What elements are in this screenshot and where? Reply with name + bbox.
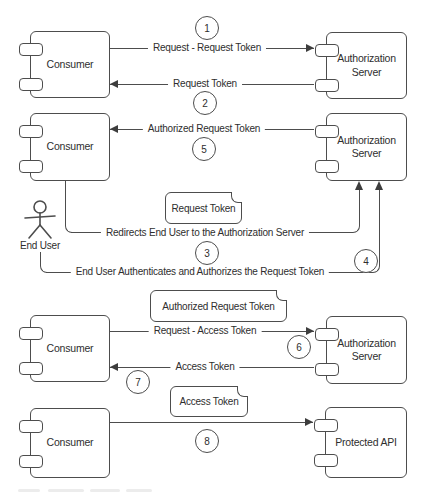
access-token-note: Access Token (170, 386, 248, 417)
arrowhead-left-icon (110, 125, 118, 133)
message-label-7: Access Token (170, 360, 239, 374)
message-line-3-segment (359, 189, 360, 226)
arrowhead-left-icon (110, 363, 118, 371)
step-badge-7: 7 (126, 370, 150, 394)
note-label: Request Token (172, 203, 236, 214)
line-corner (353, 226, 360, 233)
message-line-8 (110, 422, 313, 423)
message-label-5: Authorized Request Token (143, 122, 265, 136)
arrowhead-up-icon (355, 181, 363, 190)
component-label: Consumer (41, 58, 100, 71)
port-icon (315, 125, 339, 138)
arrowhead-right-icon (306, 44, 314, 52)
component-label: Consumer (41, 342, 100, 355)
message-label-2: Request Token (168, 77, 242, 91)
auth-server-2-component: Authorization Server (326, 113, 407, 181)
consumer-4-component: Consumer (30, 408, 110, 478)
message-label-1: Request - Request Token (148, 41, 266, 55)
message-line-4-segment (40, 252, 41, 266)
request-token-note: Request Token (165, 192, 242, 224)
step-badge-1: 1 (195, 16, 219, 40)
message-label-4: End User Authenticates and Authorizes th… (71, 265, 329, 279)
port-icon (314, 454, 338, 467)
port-icon (19, 420, 43, 433)
message-label-6: Request - Access Token (149, 324, 262, 338)
oauth-flow-diagram: Request - Request Token Request Token Au… (0, 0, 423, 495)
port-icon (19, 160, 43, 173)
step-badge-3: 3 (195, 241, 219, 265)
note-label: Access Token (179, 396, 238, 407)
consumer-1-component: Consumer (30, 31, 110, 98)
port-icon (19, 455, 43, 468)
message-line-3-segment (65, 180, 66, 226)
port-icon (314, 419, 338, 432)
port-icon (315, 328, 339, 341)
end-user-actor-icon (22, 198, 58, 242)
port-icon (19, 327, 43, 340)
message-label-3: Redirects End User to the Authorization … (101, 226, 309, 240)
protected-api-component: Protected API (325, 407, 407, 478)
port-icon (19, 78, 43, 91)
step-badge-4: 4 (354, 249, 378, 273)
consumer-3-component: Consumer (30, 315, 110, 382)
port-icon (19, 43, 43, 56)
note-fold-icon (276, 290, 287, 301)
auth-server-3-component: Authorization Server (326, 316, 407, 384)
component-label: Authorization Server (327, 337, 406, 363)
step-badge-8: 8 (195, 429, 219, 453)
step-badge-2: 2 (193, 91, 217, 115)
arrowhead-up-icon (375, 181, 383, 190)
port-icon (315, 363, 339, 376)
arrowhead-right-icon (306, 327, 314, 335)
note-fold-icon (237, 386, 248, 397)
note-fold-icon (231, 192, 242, 203)
port-icon (19, 362, 43, 375)
cut-off-caption (126, 489, 152, 492)
arrowhead-left-icon (110, 80, 118, 88)
port-icon (19, 125, 43, 138)
port-icon (315, 44, 339, 57)
step-badge-6: 6 (287, 335, 311, 359)
end-user-label: End User (20, 240, 60, 252)
note-label: Authorized Request Token (162, 301, 274, 312)
component-label: Consumer (41, 140, 100, 153)
consumer-2-component: Consumer (30, 113, 110, 181)
port-icon (315, 79, 339, 92)
component-label: Consumer (41, 436, 100, 449)
cut-off-caption (18, 489, 40, 492)
component-label: Protected API (329, 436, 403, 449)
arrowhead-right-icon (305, 418, 313, 426)
cut-off-caption (48, 489, 84, 492)
message-line-4-segment (379, 189, 380, 266)
cut-off-caption (90, 489, 120, 492)
authorized-request-token-note: Authorized Request Token (150, 290, 287, 322)
port-icon (315, 160, 339, 173)
component-label: Authorization Server (327, 134, 406, 160)
step-badge-5: 5 (192, 137, 216, 161)
auth-server-1-component: Authorization Server (326, 32, 407, 99)
component-label: Authorization Server (327, 52, 406, 78)
